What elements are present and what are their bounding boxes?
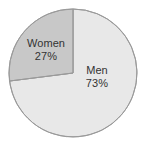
pie-label-women: Women 27%	[18, 37, 74, 63]
pie-label-women-name: Women	[18, 37, 74, 50]
pie-chart: Women 27% Men 73%	[0, 0, 144, 145]
pie-label-men-value: 73%	[72, 77, 122, 90]
pie-label-men-name: Men	[72, 64, 122, 77]
pie-label-men: Men 73%	[72, 64, 122, 90]
pie-label-women-value: 27%	[18, 50, 74, 63]
